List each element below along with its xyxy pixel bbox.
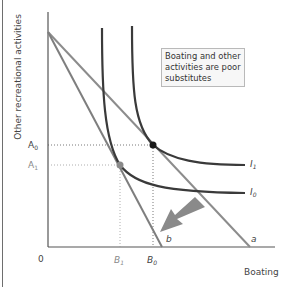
- x-axis-title: Boating: [244, 267, 279, 277]
- diagram-canvas: [0, 0, 290, 287]
- tick-label-a0: A0: [28, 140, 38, 151]
- point-new-equilibrium: [117, 162, 124, 169]
- substitutes-note: Boating and other activities are poor su…: [161, 48, 245, 87]
- budget-line-b-label: b: [166, 234, 172, 244]
- tick-label-b1: B1: [114, 255, 124, 266]
- tick-label-a1: A1: [28, 160, 38, 171]
- indifference-curve-i1: [132, 26, 245, 165]
- budget-line-a-label: a: [251, 234, 257, 244]
- point-original-equilibrium: [150, 142, 157, 149]
- shift-arrow: [160, 197, 205, 232]
- origin-label: 0: [38, 254, 44, 264]
- curve-label-i0: I0: [250, 187, 256, 198]
- y-axis-title: Other recreational activities: [13, 7, 23, 147]
- budget-line-b: [48, 32, 162, 247]
- curve-label-i1: I1: [250, 159, 256, 170]
- tick-label-b0: B0: [147, 255, 157, 266]
